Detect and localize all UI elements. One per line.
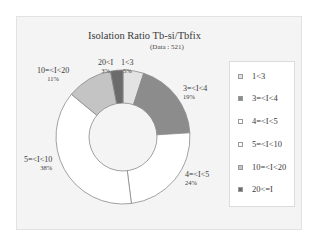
legend-item: 20<=I [238, 183, 273, 195]
donut-hole [89, 103, 157, 171]
legend-item: 10=<I<20 [238, 161, 286, 173]
legend-swatch [238, 96, 243, 101]
legend-swatch [238, 187, 243, 192]
legend-item: 1<3 [238, 70, 265, 82]
slice-label-20-plus: 20<I3% [98, 58, 113, 75]
legend-swatch [238, 74, 243, 79]
legend: 1<3 3=<I<4 4=<I<5 5=<I<10 10=<I<20 20<=I [229, 61, 295, 207]
slice-label-3-4: 3=<I<419% [183, 84, 207, 101]
legend-swatch [238, 165, 243, 170]
slice-label-5-10: 5=<I<1038% [24, 155, 52, 172]
slice-label-10-20: 10=<I<2011% [37, 66, 69, 83]
legend-item: 4=<I<5 [238, 115, 278, 127]
legend-swatch [238, 119, 243, 124]
legend-item: 3=<I<4 [238, 92, 278, 104]
slice-label-4-5: 4=<I<524% [185, 170, 209, 187]
legend-item: 5=<I<10 [238, 138, 282, 150]
slice-label-1-3: 1<35% [121, 58, 134, 75]
legend-swatch [238, 142, 243, 147]
